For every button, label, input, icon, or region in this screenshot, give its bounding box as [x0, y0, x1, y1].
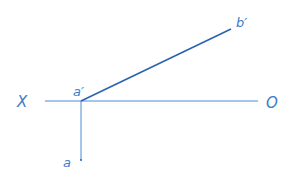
projection-diagram: X O a′ b′ a	[0, 0, 292, 178]
label-a-prime: a′	[73, 84, 84, 99]
label-b-prime: b′	[236, 15, 247, 30]
segment-a-prime-b-prime	[81, 29, 231, 101]
label-a: a	[63, 155, 71, 170]
axis-label-x: X	[16, 93, 28, 111]
axis-label-o: O	[266, 94, 278, 112]
point-a	[80, 159, 82, 161]
